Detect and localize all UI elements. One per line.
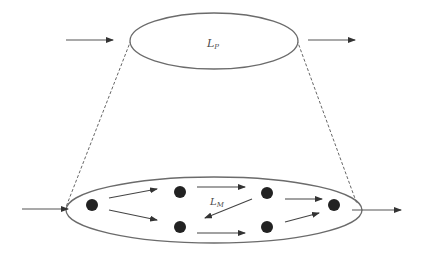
node-n2 xyxy=(174,186,186,198)
node-n3 xyxy=(174,221,186,233)
node-n4 xyxy=(261,187,273,199)
diagram-canvas: LP LM xyxy=(0,0,421,255)
diagram-svg: LP LM xyxy=(0,0,421,255)
edge-n1-n3 xyxy=(109,210,157,220)
edge-n5-n6 xyxy=(285,213,319,222)
node-n1 xyxy=(86,199,98,211)
dashed-connector-left xyxy=(66,40,131,207)
bottom-layer-label: LM xyxy=(209,196,225,209)
dashed-connector-right xyxy=(297,40,357,204)
node-n6 xyxy=(328,199,340,211)
node-n5 xyxy=(261,221,273,233)
edge-n1-n2 xyxy=(109,189,157,198)
